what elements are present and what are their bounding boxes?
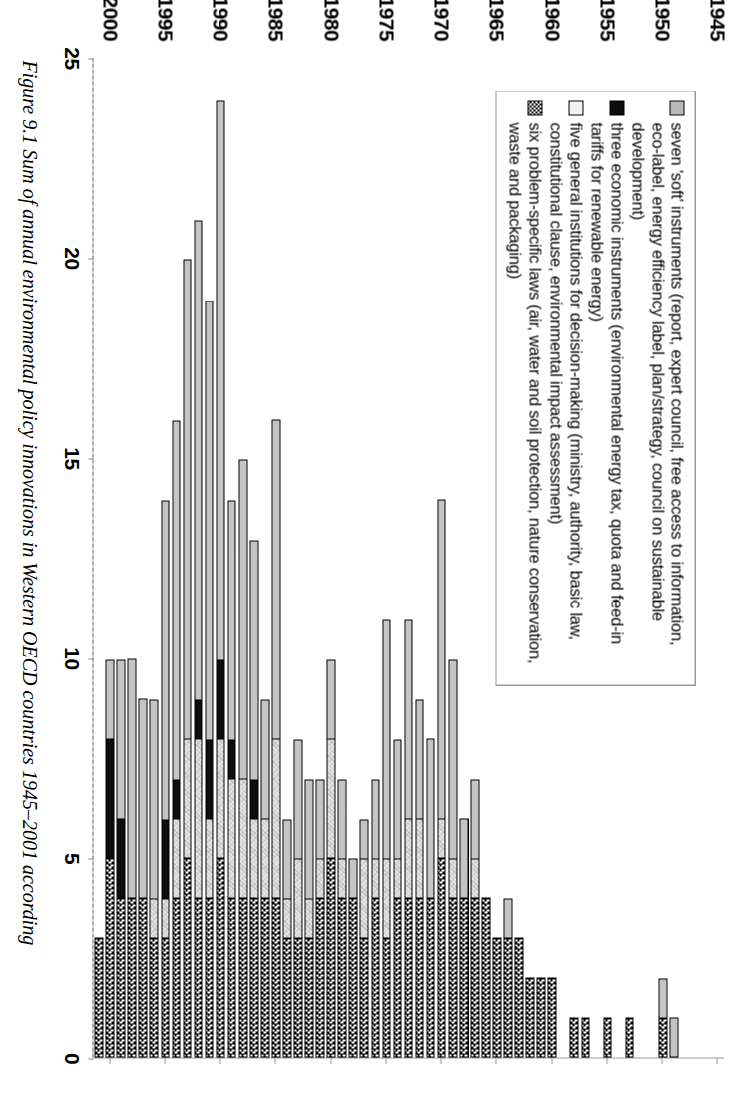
legend-item-label: six problem-specific laws (air, water an… bbox=[505, 122, 544, 675]
bar-segment-soft bbox=[249, 540, 258, 780]
bar-segment-laws bbox=[625, 1017, 634, 1057]
bar-segment-laws bbox=[371, 897, 380, 1057]
bar-segment-laws bbox=[282, 937, 291, 1057]
bar-row bbox=[227, 500, 236, 1057]
bar-segment-laws bbox=[547, 977, 556, 1057]
bar-segment-soft bbox=[470, 779, 479, 859]
bar-segment-laws bbox=[105, 857, 114, 1057]
bar-segment-soft bbox=[382, 619, 391, 859]
bar-segment-inst bbox=[172, 818, 181, 898]
value-axis-line bbox=[92, 58, 93, 1058]
bar-row bbox=[404, 619, 413, 1057]
bar-row bbox=[216, 100, 225, 1057]
bar-row bbox=[150, 699, 159, 1057]
figure-number: Figure 9.1 bbox=[18, 60, 40, 144]
bar-row bbox=[536, 977, 545, 1057]
bar-segment-soft bbox=[315, 779, 324, 859]
bar-segment-laws bbox=[127, 897, 136, 1057]
bar-segment-econ bbox=[172, 779, 181, 819]
bar-segment-inst bbox=[227, 778, 236, 898]
bar-segment-laws bbox=[503, 937, 512, 1057]
legend-item: six problem-specific laws (air, water an… bbox=[505, 100, 544, 675]
bar-segment-econ bbox=[161, 819, 170, 899]
bar-segment-inst bbox=[260, 818, 269, 898]
bar-segment-inst bbox=[470, 858, 479, 898]
category-tick bbox=[495, 1058, 496, 1063]
bar-segment-soft bbox=[426, 738, 435, 898]
category-tick-label: 1945 bbox=[707, 0, 728, 52]
bar-row bbox=[437, 499, 446, 1057]
bar-row bbox=[658, 978, 667, 1057]
category-tick-label: 1980 bbox=[321, 0, 342, 52]
bar-segment-soft bbox=[459, 818, 468, 898]
category-tick bbox=[440, 1058, 441, 1063]
category-tick bbox=[274, 1058, 275, 1063]
bar-row bbox=[547, 977, 556, 1057]
bar-segment-laws bbox=[360, 937, 369, 1057]
bar-row bbox=[503, 898, 512, 1057]
bar-segment-laws bbox=[183, 857, 192, 1057]
bar-segment-inst bbox=[382, 858, 391, 938]
bar-segment-soft bbox=[371, 779, 380, 859]
legend-item-label: five general institutions for decision-m… bbox=[546, 122, 585, 675]
bar-segment-soft bbox=[669, 1017, 678, 1057]
bar-segment-laws bbox=[172, 897, 181, 1057]
category-tick-label: 1985 bbox=[265, 0, 286, 52]
bar-segment-laws bbox=[337, 897, 346, 1057]
bar-segment-laws bbox=[459, 897, 468, 1057]
category-tick bbox=[219, 1058, 220, 1063]
bar-segment-soft bbox=[404, 619, 413, 819]
bar-row bbox=[161, 500, 170, 1057]
bar-row bbox=[238, 459, 247, 1057]
bar-segment-laws bbox=[492, 937, 501, 1057]
category-tick bbox=[716, 1058, 717, 1063]
bar-row bbox=[415, 699, 424, 1057]
bar-segment-laws bbox=[116, 897, 125, 1057]
bar-segment-laws bbox=[348, 897, 357, 1057]
category-tick-label: 1950 bbox=[652, 0, 673, 52]
bar-segment-laws bbox=[393, 897, 402, 1057]
bar-row bbox=[426, 738, 435, 1057]
bar-segment-soft bbox=[116, 659, 125, 819]
checkered-square-swatch bbox=[527, 100, 542, 115]
bar-segment-soft bbox=[205, 300, 214, 740]
bar-segment-inst bbox=[337, 858, 346, 898]
category-tick-label: 1960 bbox=[542, 0, 563, 52]
bar-segment-inst bbox=[282, 898, 291, 938]
bar-segment-econ bbox=[249, 779, 258, 819]
bar-segment-laws bbox=[570, 1017, 579, 1057]
figure-container: 1945195019551960196519701975198019851990… bbox=[0, 0, 731, 1097]
bar-row bbox=[127, 658, 136, 1057]
bar-segment-laws bbox=[227, 897, 236, 1057]
bar-row bbox=[625, 1017, 634, 1057]
bar-row bbox=[105, 659, 114, 1057]
bar-segment-laws bbox=[304, 937, 313, 1057]
value-tick-label: 0 bbox=[59, 1028, 83, 1088]
bar-segment-laws bbox=[326, 857, 335, 1057]
bar-row bbox=[348, 858, 357, 1057]
bar-segment-soft bbox=[337, 779, 346, 859]
category-tick-label: 1955 bbox=[597, 0, 618, 52]
bar-row bbox=[116, 659, 125, 1057]
value-tick bbox=[88, 458, 93, 459]
bar-segment-econ bbox=[116, 818, 125, 898]
bar-row bbox=[581, 1017, 590, 1057]
bar-segment-soft bbox=[194, 220, 203, 700]
bar-segment-soft bbox=[448, 659, 457, 859]
value-tick bbox=[88, 658, 93, 659]
bar-row bbox=[172, 420, 181, 1057]
bar-segment-soft bbox=[216, 100, 225, 660]
bar-row bbox=[570, 1017, 579, 1057]
bar-segment-laws bbox=[448, 897, 457, 1057]
value-tick bbox=[88, 258, 93, 259]
bar-segment-inst bbox=[205, 818, 214, 898]
bar-segment-inst bbox=[194, 738, 203, 898]
bar-segment-laws bbox=[514, 937, 523, 1057]
bar-row bbox=[304, 779, 313, 1057]
bar-segment-laws bbox=[603, 1017, 612, 1057]
bar-segment-inst bbox=[161, 898, 170, 938]
bar-row bbox=[337, 779, 346, 1057]
bar-segment-soft bbox=[293, 739, 302, 859]
bar-segment-soft bbox=[161, 500, 170, 820]
grey-square-swatch bbox=[669, 100, 684, 115]
